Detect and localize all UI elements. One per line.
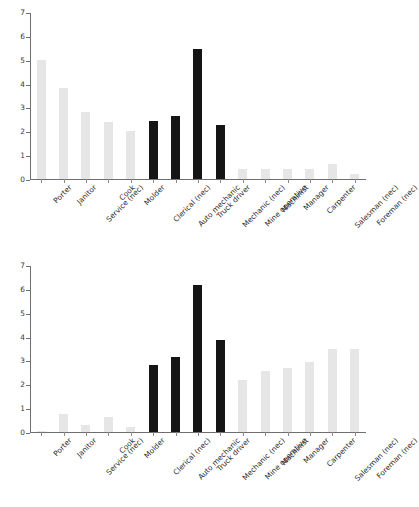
bar-slot	[299, 265, 321, 432]
x-axis-label-text: Molder	[142, 183, 166, 207]
plot-area-top: 01234567	[30, 13, 366, 180]
x-axis-label-text: Janitor	[75, 183, 98, 206]
bar-bottom-12	[305, 362, 314, 432]
bar-slot	[97, 12, 119, 179]
chart-panel-bottom: % of workers 01234567 PorterJanitorServi…	[0, 253, 377, 507]
bar-slot	[276, 12, 298, 179]
x-axis-label-bottom-4: Molder	[142, 436, 166, 460]
bar-top-6	[171, 116, 180, 179]
bar-slot	[164, 12, 186, 179]
y-tick-label-bottom-7: 7	[11, 262, 25, 269]
y-tick-label-bottom-3: 3	[11, 358, 25, 365]
y-tick-label-top-4: 4	[11, 81, 25, 88]
bar-top-13	[328, 164, 337, 180]
bar-bottom-8	[216, 340, 225, 432]
bar-bottom-11	[283, 368, 292, 432]
bar-top-7	[193, 49, 202, 179]
bar-bottom-1	[59, 414, 68, 432]
y-tick-label-top-6: 6	[11, 33, 25, 40]
bar-bottom-3	[104, 417, 113, 433]
x-axis-labels-bottom: PorterJanitorService (nec)CookMolderCler…	[30, 434, 366, 504]
x-axis-label-text: Porter	[52, 436, 74, 458]
bar-bottom-6	[171, 357, 180, 432]
bar-slot	[75, 12, 97, 179]
bar-slot	[209, 265, 231, 432]
bar-top-9	[238, 169, 247, 179]
bars-container-top	[30, 12, 366, 179]
bar-top-5	[149, 121, 158, 179]
bar-top-12	[305, 169, 314, 179]
bar-slot	[321, 12, 343, 179]
bar-bottom-9	[238, 380, 247, 432]
y-tick-label-top-5: 5	[11, 57, 25, 64]
bar-slot	[30, 12, 52, 179]
bar-top-1	[59, 88, 68, 179]
x-axis-label-top-0: Porter	[52, 183, 74, 205]
x-axis-label-bottom-1: Janitor	[75, 436, 98, 459]
bar-slot	[97, 265, 119, 432]
bar-bottom-2	[81, 425, 90, 432]
y-tick-label-bottom-1: 1	[11, 406, 25, 413]
bar-top-10	[261, 169, 270, 179]
bar-slot	[187, 12, 209, 179]
bar-slot	[209, 12, 231, 179]
bar-slot	[142, 12, 164, 179]
bar-slot	[120, 12, 142, 179]
bar-slot	[75, 265, 97, 432]
y-tick-label-bottom-0: 0	[11, 429, 25, 436]
bar-slot	[232, 265, 254, 432]
bar-slot	[232, 12, 254, 179]
bar-slot	[344, 265, 366, 432]
y-tick-label-top-3: 3	[11, 105, 25, 112]
bar-slot	[30, 265, 52, 432]
x-axis-label-text: Molder	[142, 436, 166, 460]
bar-bottom-5	[149, 365, 158, 432]
bar-slot	[254, 12, 276, 179]
bar-top-2	[81, 112, 90, 179]
bar-slot	[344, 12, 366, 179]
bar-slot	[164, 265, 186, 432]
y-tick-label-top-0: 0	[11, 176, 25, 183]
x-axis-label-text: Janitor	[75, 436, 98, 459]
bar-slot	[120, 265, 142, 432]
bar-slot	[299, 12, 321, 179]
bar-top-3	[104, 122, 113, 179]
bar-top-0	[37, 60, 46, 179]
bar-slot	[52, 12, 74, 179]
x-axis-labels-top: PorterJanitorService (nec)CookMolderCler…	[30, 181, 366, 251]
bar-slot	[321, 265, 343, 432]
bar-top-4	[126, 131, 135, 179]
bar-slot	[52, 265, 74, 432]
bar-top-8	[216, 125, 225, 179]
bar-slot	[276, 265, 298, 432]
y-tick-label-top-2: 2	[11, 129, 25, 136]
x-axis-label-top-4: Molder	[142, 183, 166, 207]
x-axis-label-top-1: Janitor	[75, 183, 98, 206]
y-tick-label-bottom-4: 4	[11, 334, 25, 341]
bar-bottom-7	[193, 285, 202, 432]
y-tick-label-bottom-2: 2	[11, 382, 25, 389]
bar-bottom-10	[261, 371, 270, 432]
bars-container-bottom	[30, 265, 366, 432]
y-tick-label-top-7: 7	[11, 9, 25, 16]
bar-top-11	[283, 169, 292, 179]
chart-panel-top: % of workers 01234567 PorterJanitorServi…	[0, 0, 377, 253]
y-tick-label-top-1: 1	[11, 153, 25, 160]
x-axis-label-text: Porter	[52, 183, 74, 205]
y-tick-label-bottom-5: 5	[11, 310, 25, 317]
bar-bottom-14	[350, 349, 359, 433]
bar-slot	[142, 265, 164, 432]
x-axis-label-bottom-0: Porter	[52, 436, 74, 458]
bar-bottom-13	[328, 349, 337, 433]
bar-slot	[187, 265, 209, 432]
plot-area-bottom: 01234567	[30, 266, 366, 433]
bar-slot	[254, 265, 276, 432]
y-tick-label-bottom-6: 6	[11, 286, 25, 293]
